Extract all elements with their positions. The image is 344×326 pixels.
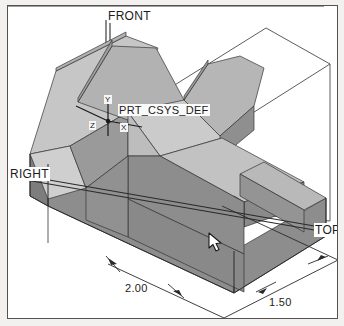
cad-viewport[interactable]: FRONT RIGHT TOP PRT_CSYS_DEF Y Z X 2.00 … xyxy=(0,0,344,326)
datum-label-right[interactable]: RIGHT xyxy=(9,167,50,181)
axis-label-x: X xyxy=(120,123,128,132)
datum-label-front[interactable]: FRONT xyxy=(107,9,152,23)
dimension-value-depth[interactable]: 1.50 xyxy=(269,296,292,308)
dimension-value-width[interactable]: 2.00 xyxy=(125,282,148,294)
solid-model[interactable] xyxy=(30,32,326,293)
axis-label-y: Y xyxy=(104,95,112,104)
axis-label-z: Z xyxy=(89,121,96,130)
datum-label-top[interactable]: TOP xyxy=(314,223,338,237)
graphics-window[interactable]: FRONT RIGHT TOP PRT_CSYS_DEF Y Z X 2.00 … xyxy=(7,5,338,319)
csys-label[interactable]: PRT_CSYS_DEF xyxy=(118,104,210,116)
model-scene xyxy=(8,6,337,318)
